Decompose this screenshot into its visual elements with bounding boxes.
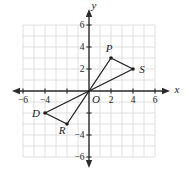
y-axis-arrowhead-bottom xyxy=(86,160,92,168)
graph-canvas: −6−4246642−4−6PSDR y x O xyxy=(0,0,189,176)
point-label-D: D xyxy=(31,107,40,119)
x-tick-label: 4 xyxy=(131,95,136,105)
x-tick-label: −4 xyxy=(40,95,50,105)
point-label-P: P xyxy=(105,42,113,54)
x-axis-arrowhead-right xyxy=(162,88,170,94)
point-label-R: R xyxy=(58,124,66,136)
x-tick-label: 2 xyxy=(109,95,114,105)
y-tick-label: −4 xyxy=(74,130,84,140)
point-dot-D xyxy=(43,111,47,115)
y-tick-label: 6 xyxy=(80,20,85,30)
origin-label: O xyxy=(92,93,100,105)
x-axis-arrowhead-left xyxy=(12,88,20,94)
x-axis-label: x xyxy=(174,83,180,95)
point-label-S: S xyxy=(139,63,145,75)
x-tick-label: −6 xyxy=(18,95,28,105)
generated-plot-content: −6−4246642−4−6PSDR xyxy=(12,9,170,168)
y-axis-label: y xyxy=(91,0,97,11)
coordinate-plane-figure: −6−4246642−4−6PSDR y x O xyxy=(0,0,189,176)
point-dot-P xyxy=(109,56,113,60)
y-tick-label: 2 xyxy=(80,64,85,74)
y-tick-label: 4 xyxy=(80,42,85,52)
x-tick-label: 6 xyxy=(153,95,158,105)
y-tick-label: −6 xyxy=(74,152,84,162)
point-dot-R xyxy=(65,122,69,126)
point-dot-S xyxy=(131,67,135,71)
